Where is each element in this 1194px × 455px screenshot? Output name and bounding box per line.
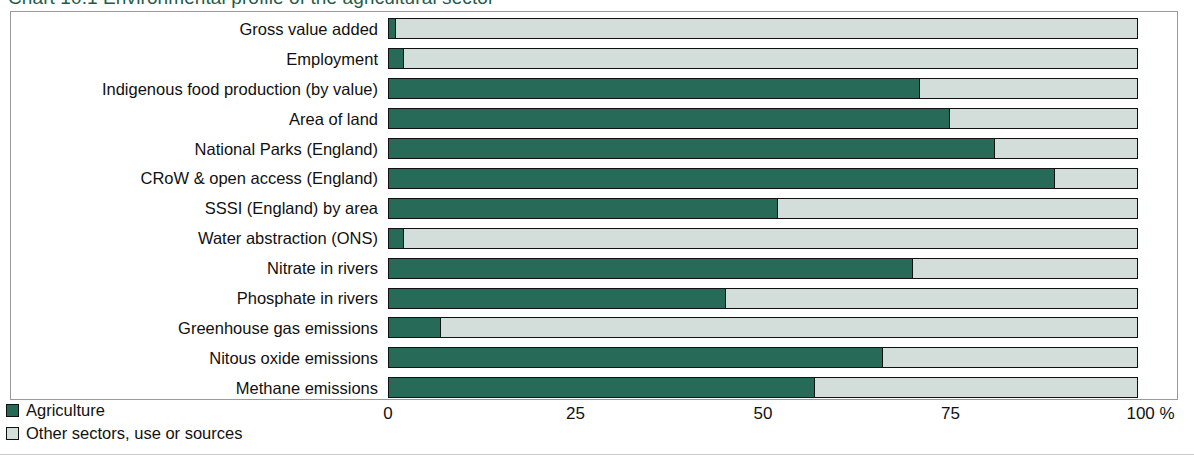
bar-segment-agriculture — [389, 49, 404, 68]
stacked-bar — [388, 108, 1138, 129]
bar-segment-other-sectors — [404, 49, 1137, 68]
bar-row: Greenhouse gas emissions — [0, 313, 1194, 343]
category-label: Indigenous food production (by value) — [0, 80, 388, 98]
stacked-bar — [388, 198, 1138, 219]
bar-row: Employment — [0, 44, 1194, 74]
stacked-bar — [388, 258, 1138, 279]
bar-track — [388, 198, 1138, 219]
chart-legend: AgricultureOther sectors, use or sources — [6, 399, 336, 445]
legend-label: Agriculture — [26, 401, 105, 420]
category-label: Phosphate in rivers — [0, 289, 388, 307]
bar-track — [388, 138, 1138, 159]
bar-segment-other-sectors — [404, 229, 1137, 248]
category-label: Water abstraction (ONS) — [0, 229, 388, 247]
bar-segment-other-sectors — [778, 199, 1137, 218]
bar-track — [388, 48, 1138, 69]
x-axis-tick-label: 100 % — [1126, 404, 1174, 424]
bar-row: SSSI (England) by area — [0, 193, 1194, 223]
bar-segment-agriculture — [389, 109, 950, 128]
bar-segment-agriculture — [389, 19, 396, 38]
bar-segment-other-sectors — [995, 139, 1137, 158]
stacked-bar — [388, 168, 1138, 189]
stacked-bar — [388, 138, 1138, 159]
bar-segment-other-sectors — [1055, 169, 1137, 188]
bar-row: National Parks (England) — [0, 134, 1194, 164]
bar-track — [388, 228, 1138, 249]
page-title: Chart 10.1 Environmental profile of the … — [8, 0, 494, 9]
bar-segment-other-sectors — [441, 318, 1137, 337]
category-label: Greenhouse gas emissions — [0, 319, 388, 337]
bar-track — [388, 288, 1138, 309]
x-axis-tick-label: 75 — [941, 404, 960, 424]
bar-segment-agriculture — [389, 199, 778, 218]
bar-segment-other-sectors — [815, 378, 1137, 397]
bar-track — [388, 18, 1138, 39]
stacked-bar — [388, 48, 1138, 69]
bar-row: Area of land — [0, 104, 1194, 134]
stacked-bar — [388, 377, 1138, 398]
bar-row: Nitrate in rivers — [0, 253, 1194, 283]
bar-segment-other-sectors — [920, 79, 1137, 98]
category-label: CRoW & open access (England) — [0, 169, 388, 187]
bar-row: Nitous oxide emissions — [0, 343, 1194, 373]
bar-segment-agriculture — [389, 378, 815, 397]
stacked-bar — [388, 228, 1138, 249]
category-label: Employment — [0, 50, 388, 68]
bar-segment-agriculture — [389, 348, 883, 367]
bar-segment-agriculture — [389, 318, 441, 337]
bar-segment-other-sectors — [950, 109, 1137, 128]
legend-label: Other sectors, use or sources — [26, 424, 242, 443]
bar-track — [388, 258, 1138, 279]
bar-row: Phosphate in rivers — [0, 283, 1194, 313]
bar-row: Water abstraction (ONS) — [0, 223, 1194, 253]
bar-row: CRoW & open access (England) — [0, 164, 1194, 194]
x-axis: 0255075100 % — [388, 404, 1178, 434]
stacked-bar — [388, 18, 1138, 39]
category-label: SSSI (England) by area — [0, 199, 388, 217]
bar-segment-agriculture — [389, 259, 913, 278]
stacked-bar — [388, 317, 1138, 338]
bar-segment-agriculture — [389, 229, 404, 248]
bar-segment-agriculture — [389, 79, 920, 98]
stacked-bar — [388, 288, 1138, 309]
category-label: National Parks (England) — [0, 140, 388, 158]
bar-row: Indigenous food production (by value) — [0, 74, 1194, 104]
bar-track — [388, 168, 1138, 189]
category-label: Methane emissions — [0, 379, 388, 397]
bar-segment-other-sectors — [726, 289, 1137, 308]
category-label: Nitrate in rivers — [0, 259, 388, 277]
stacked-bar — [388, 347, 1138, 368]
bar-segment-agriculture — [389, 169, 1055, 188]
legend-item: Other sectors, use or sources — [6, 422, 336, 445]
bar-segment-agriculture — [389, 289, 726, 308]
bar-track — [388, 78, 1138, 99]
legend-item: Agriculture — [6, 399, 336, 422]
bar-segment-other-sectors — [883, 348, 1137, 367]
category-label: Nitous oxide emissions — [0, 349, 388, 367]
bar-row: Gross value added — [0, 14, 1194, 44]
category-label: Area of land — [0, 110, 388, 128]
x-axis-tick-label: 0 — [383, 404, 392, 424]
x-axis-tick-label: 25 — [566, 404, 585, 424]
bar-segment-other-sectors — [396, 19, 1137, 38]
bar-segment-other-sectors — [913, 259, 1137, 278]
bar-track — [388, 108, 1138, 129]
bar-track — [388, 377, 1138, 398]
legend-swatch-grey — [6, 427, 19, 440]
legend-swatch-green — [6, 404, 19, 417]
bar-rows-container: Gross value addedEmploymentIndigenous fo… — [0, 11, 1194, 400]
stacked-bar — [388, 78, 1138, 99]
bar-track — [388, 317, 1138, 338]
x-axis-tick-label: 50 — [754, 404, 773, 424]
category-label: Gross value added — [0, 20, 388, 38]
bar-segment-agriculture — [389, 139, 995, 158]
bar-track — [388, 347, 1138, 368]
